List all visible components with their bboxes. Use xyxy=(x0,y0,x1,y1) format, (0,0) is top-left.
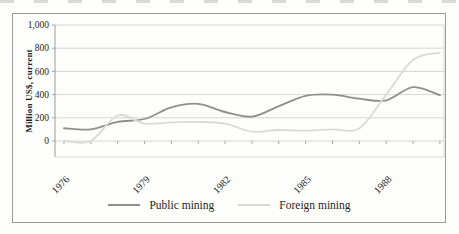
y-tick-label: 600 xyxy=(35,67,50,77)
x-tick-label: 1982 xyxy=(211,174,233,196)
foreign-mining-line-swatch xyxy=(238,204,270,206)
x-tick-label: 1976 xyxy=(49,174,71,196)
legend-item-foreign-mining: Foreign mining xyxy=(238,199,350,211)
series-line-0 xyxy=(64,87,440,130)
public-mining-line-swatch xyxy=(108,204,140,206)
legend-item-public-mining: Public mining xyxy=(108,199,214,211)
y-tick-label: 1,000 xyxy=(28,20,50,30)
legend: Public mining Foreign mining xyxy=(0,196,459,214)
x-tick-label: 1985 xyxy=(291,174,313,196)
x-tick-label: 1988 xyxy=(372,174,394,196)
y-tick-label: 200 xyxy=(35,113,50,123)
scanned-chart-page: Million US$, current 02004006008001,0001… xyxy=(0,0,459,234)
y-tick-label: 800 xyxy=(35,43,50,53)
legend-label-public-mining: Public mining xyxy=(149,199,214,211)
x-tick-label: 1979 xyxy=(130,174,152,196)
series-line-1 xyxy=(64,53,440,143)
legend-label-foreign-mining: Foreign mining xyxy=(279,199,350,211)
y-tick-label: 0 xyxy=(44,136,49,146)
y-tick-label: 400 xyxy=(35,90,50,100)
